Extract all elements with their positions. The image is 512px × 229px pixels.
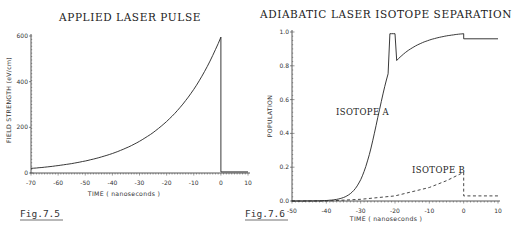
svg-text:0.8: 0.8	[279, 62, 289, 69]
svg-text:-70: -70	[26, 179, 36, 186]
axis-ticks	[292, 32, 498, 204]
pulse-line	[31, 37, 248, 172]
y-axis-label: POPULATION	[266, 95, 273, 137]
chart-title: ADIABATIC LASER ISOTOPE SEPARATION	[259, 8, 512, 20]
svg-text:0.4: 0.4	[279, 129, 289, 136]
svg-text:-50: -50	[287, 207, 297, 214]
svg-text:0.0: 0.0	[279, 197, 289, 204]
svg-text:-50: -50	[80, 179, 90, 186]
isotope-b-annotation: ISOTOPE B	[412, 165, 465, 175]
isotope-b-line	[292, 172, 498, 201]
svg-text:200: 200	[17, 123, 29, 130]
svg-text:1.0: 1.0	[279, 28, 289, 35]
svg-text:-30: -30	[356, 207, 366, 214]
chart-isotope-separation: ADIABATIC LASER ISOTOPE SEPARATION -50-4…	[245, 8, 512, 222]
svg-text:-40: -40	[321, 207, 331, 214]
tick-labels: -50-40-30-20-100100.00.20.40.60.81.0	[279, 28, 502, 214]
svg-text:-20: -20	[390, 207, 400, 214]
chart-title: APPLIED LASER PULSE	[58, 11, 201, 23]
svg-text:-60: -60	[53, 179, 63, 186]
svg-text:0.2: 0.2	[279, 163, 289, 170]
svg-text:0: 0	[462, 207, 466, 214]
svg-text:0: 0	[24, 169, 28, 176]
x-axis-label: TIME ( nanoseconds )	[349, 215, 422, 222]
svg-text:-10: -10	[424, 207, 434, 214]
y-axis-label: FIELD STRENGTH (eV/cm)	[5, 57, 12, 143]
svg-text:10: 10	[494, 207, 502, 214]
figure-canvas: APPLIED LASER PULSE -70-60-50-40-30-20-1…	[0, 0, 512, 229]
svg-text:0.6: 0.6	[279, 96, 289, 103]
svg-text:0: 0	[219, 179, 223, 186]
figure-label: Fig.7.5	[20, 208, 60, 219]
axis-ticks	[31, 36, 248, 176]
svg-text:400: 400	[17, 78, 29, 85]
chart-applied-laser-pulse: APPLIED LASER PULSE -70-60-50-40-30-20-1…	[5, 11, 252, 220]
svg-text:-20: -20	[162, 179, 172, 186]
svg-text:-40: -40	[107, 179, 117, 186]
svg-text:-10: -10	[189, 179, 199, 186]
svg-text:600: 600	[17, 32, 29, 39]
tick-labels: -70-60-50-40-30-20-100100200400600	[17, 32, 252, 186]
isotope-a-annotation: ISOTOPE A	[336, 107, 390, 117]
x-axis-label: TIME ( nanoseconds )	[87, 190, 160, 197]
svg-text:10: 10	[244, 179, 252, 186]
figure-label: Fig.7.6	[245, 208, 285, 219]
isotope-a-line	[292, 34, 498, 201]
svg-text:-30: -30	[135, 179, 145, 186]
